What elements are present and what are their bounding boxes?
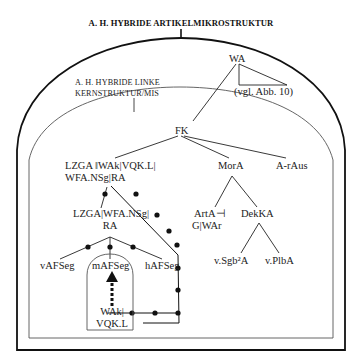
node-wa: WA (229, 53, 245, 64)
node-mora: MorA (218, 160, 244, 171)
diagram-canvas (0, 0, 362, 362)
inner-structure-label-line1: A. H. HYBRIDE LINKE (75, 77, 160, 88)
arrow-head-icon (106, 271, 118, 282)
node-lzga2-line2: RA (100, 220, 120, 231)
node-lzga2-line1: LZGA|WFA.NSg| (73, 208, 149, 219)
node-wak-line2: VQK.L (90, 318, 134, 329)
node-vgl: (vgl. Abb. 10) (234, 86, 293, 97)
node-a-raus: A-rAus (276, 160, 308, 171)
node-mafseg: mAFSeg (92, 260, 129, 271)
node-vafseg: vAFSeg (40, 260, 74, 271)
node-vsgb: v.Sgb²A (214, 255, 248, 266)
node-lzga-line1: LZGA ‖WAk|VQK.L| (65, 160, 156, 171)
outer-structure-frame (17, 38, 345, 350)
node-vplba: v.PlbA (265, 255, 294, 266)
node-wak-line1: WAk| (92, 306, 132, 317)
node-hafseg: hAFSeg (145, 260, 179, 271)
node-dekka: DekKA (241, 208, 274, 219)
node-arta-line2: G|WAr (192, 220, 222, 231)
dotted-derivation-path (111, 186, 179, 323)
node-fk: FK (175, 125, 188, 136)
node-lzga-line2: WFA.NSg|RA (65, 172, 126, 183)
node-arta-line1: ArtA⊣ (194, 208, 226, 219)
diagram-title: A. H. HYBRIDE ARTIKELMIKROSTRUKTUR (0, 18, 362, 28)
inner-structure-label-line2: KERNSTRUKTUR/MIS (75, 88, 159, 99)
